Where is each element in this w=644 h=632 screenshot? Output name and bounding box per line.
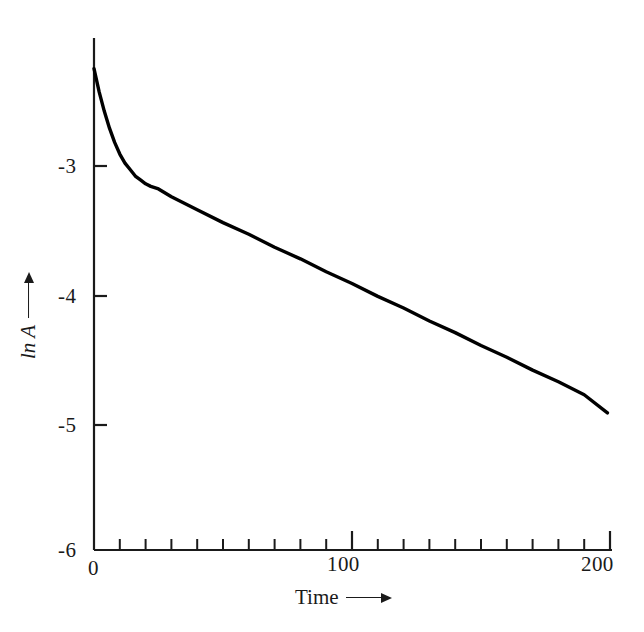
y-tick-label-minus5: -5 [58,413,76,438]
y-tick-label-minus6: -6 [58,538,76,563]
x-tick-label-200: 200 [581,552,614,577]
x-tick-label-100: 100 [327,552,360,577]
x-axis-title-text: Time [295,585,339,610]
y-tick-label-minus3: -3 [58,154,76,179]
y-axis-title-text: ln A [17,324,42,358]
arrow-up-icon [24,271,34,317]
x-axis-title: Time [295,585,392,610]
y-axis-title: ln A [8,250,50,380]
x-tick-label-0: 0 [88,556,99,581]
y-axis-ticks [94,166,107,425]
plot-area [0,0,644,632]
data-series-line [94,69,607,413]
y-tick-label-minus4: -4 [58,284,76,309]
chart-figure: -3 -4 -5 -6 0 100 200 Time ln A [0,0,644,632]
arrow-right-icon [346,593,392,603]
